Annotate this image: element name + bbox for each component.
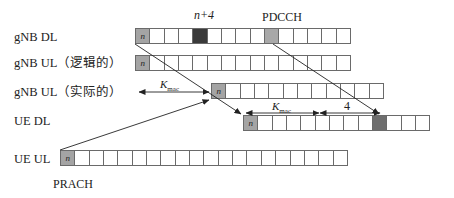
slot-cell <box>250 55 265 71</box>
slot-cell <box>401 115 416 131</box>
row-gnb-dl: n <box>135 28 351 44</box>
slot-cell <box>290 150 305 166</box>
slot-cell <box>189 150 204 166</box>
slot-cell <box>340 83 355 99</box>
row-label-ue-ul: UE UL <box>14 152 50 166</box>
slot-cell <box>275 150 290 166</box>
slot-cell <box>250 28 265 44</box>
slot-cell: n <box>60 150 75 166</box>
slot-cell <box>297 83 312 99</box>
slot-cell <box>336 55 351 71</box>
slot-cell <box>326 83 341 99</box>
row-gnb-ul-actual: n <box>211 83 384 99</box>
slot-cell <box>192 28 207 44</box>
prach-label: PRACH <box>53 177 93 191</box>
slot-cell <box>232 150 247 166</box>
slot-cell: n <box>211 83 226 99</box>
n-plus-4-text: n+4 <box>194 8 214 22</box>
slot-cell <box>272 115 287 131</box>
slot-cell <box>254 83 269 99</box>
slot-cell <box>225 83 240 99</box>
kmac-sub-text: mac <box>279 107 291 115</box>
slot-cell <box>304 150 319 166</box>
kmac-label-ue: Kmac <box>272 100 291 115</box>
slot-cell <box>240 83 255 99</box>
slot-cell <box>132 150 147 166</box>
slot-cell <box>300 115 315 131</box>
prach-propagation-arrow <box>60 100 209 150</box>
slot-cell <box>307 55 322 71</box>
pdcch-label: PDCCH <box>262 10 302 24</box>
slot-cell <box>264 28 279 44</box>
slot-cell <box>103 150 118 166</box>
slot-cell <box>164 55 179 71</box>
slot-cell <box>146 150 161 166</box>
slot-cell <box>315 115 330 131</box>
slot-cell <box>318 150 333 166</box>
row-label-ue-dl: UE DL <box>14 114 50 128</box>
slot-cell <box>207 55 222 71</box>
slot-cell <box>358 115 373 131</box>
slot-cell <box>178 28 193 44</box>
slot-cell <box>369 83 384 99</box>
row-label-gnb-dl: gNB DL <box>14 30 57 44</box>
slot-cell <box>278 55 293 71</box>
slot-cell <box>74 150 89 166</box>
row-label-gnb-ul-logical: gNB UL（逻辑的） <box>14 56 122 70</box>
slot-cell: n <box>135 28 150 44</box>
slot-cell <box>178 55 193 71</box>
slot-cell <box>278 28 293 44</box>
row-gnb-ul-logical: n <box>135 55 351 71</box>
slot-cell <box>203 150 218 166</box>
slot-cell <box>333 150 348 166</box>
slot-cell: n <box>135 55 150 71</box>
slot-cell <box>246 150 261 166</box>
slot-cell <box>386 115 401 131</box>
slot-cell <box>283 83 298 99</box>
kmac-sub-text: mac <box>167 85 179 93</box>
row-ue-ul: n <box>60 150 348 166</box>
n-plus-4-label: n+4 <box>194 8 214 22</box>
slot-cell <box>261 150 276 166</box>
slot-cell <box>207 28 222 44</box>
slot-cell <box>307 28 322 44</box>
slot-cell <box>235 55 250 71</box>
slot-cell <box>192 55 207 71</box>
slot-cell <box>372 115 387 131</box>
slot-cell <box>264 55 279 71</box>
slot-cell <box>164 28 179 44</box>
row-label-gnb-ul-actual: gNB UL（实际的） <box>14 85 122 99</box>
slot-cell <box>218 150 233 166</box>
slot-cell <box>149 28 164 44</box>
slot-cell <box>268 83 283 99</box>
slot-cell <box>286 115 301 131</box>
slot-cell <box>175 150 190 166</box>
slot-cell <box>149 55 164 71</box>
slot-cell <box>343 115 358 131</box>
slot-cell: n <box>243 115 258 131</box>
row-ue-dl: n <box>243 115 430 131</box>
slot-cell <box>160 150 175 166</box>
slot-cell <box>293 55 308 71</box>
slot-cell <box>329 115 344 131</box>
slot-cell <box>221 55 236 71</box>
slot-cell <box>257 115 272 131</box>
slot-cell <box>235 28 250 44</box>
slot-cell <box>321 55 336 71</box>
slot-cell <box>117 150 132 166</box>
offset-four-label: 4 <box>344 99 350 114</box>
slot-cell <box>415 115 430 131</box>
slot-cell <box>336 28 351 44</box>
slot-cell <box>89 150 104 166</box>
slot-cell <box>293 28 308 44</box>
slot-cell <box>354 83 369 99</box>
slot-cell <box>311 83 326 99</box>
slot-cell <box>221 28 236 44</box>
kmac-label-gnb: Kmac <box>160 78 179 93</box>
slot-cell <box>321 28 336 44</box>
